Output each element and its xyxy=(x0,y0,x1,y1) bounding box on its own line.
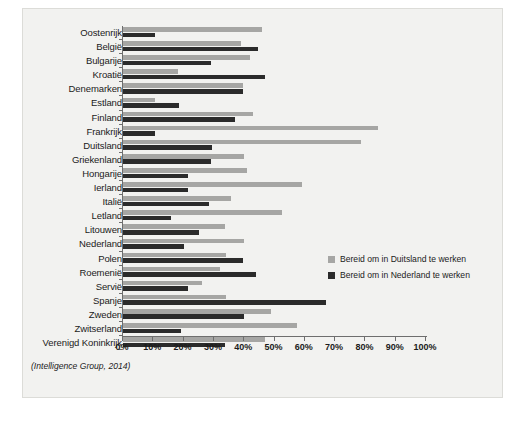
bar-nederland xyxy=(123,117,235,122)
category-label: Frankrijk xyxy=(27,125,122,139)
category-label: Nederland xyxy=(27,237,122,251)
value-tick xyxy=(425,337,426,341)
chart-page: OostenrijkBelgiëBulgarijeKroatiëDenemark… xyxy=(0,0,525,424)
bar-group xyxy=(122,181,426,195)
bar-duitsland xyxy=(123,281,202,286)
bar-group xyxy=(122,82,426,96)
bar-duitsland xyxy=(123,295,226,300)
bars-plot-area xyxy=(122,26,426,336)
bar-nederland xyxy=(123,89,243,94)
bar-duitsland xyxy=(123,27,262,32)
value-tick xyxy=(364,337,365,341)
legend-label: Bereid om in Duitsland te werken xyxy=(340,254,466,264)
category-label: Denemarken xyxy=(27,82,122,96)
bar-group xyxy=(122,209,426,223)
bar-duitsland xyxy=(123,239,244,244)
bar-nederland xyxy=(123,159,211,164)
bar-group xyxy=(122,237,426,251)
chart-plot-wrapper: OostenrijkBelgiëBulgarijeKroatiëDenemark… xyxy=(23,9,502,397)
bar-nederland xyxy=(123,272,256,277)
bar-duitsland xyxy=(123,168,247,173)
category-label: Estland xyxy=(27,96,122,110)
legend-label: Bereid om in Nederland te werken xyxy=(340,270,470,280)
bar-nederland xyxy=(123,244,184,249)
legend-swatch-icon xyxy=(328,256,335,263)
bar-group xyxy=(122,223,426,237)
bar-nederland xyxy=(123,314,244,319)
value-tick xyxy=(274,337,275,341)
value-tick xyxy=(152,337,153,341)
bar-duitsland xyxy=(123,140,361,145)
value-axis-ticks: 0%10%20%30%40%50%60%70%80%90%100% xyxy=(122,337,426,353)
bar-group xyxy=(122,294,426,308)
category-label: Zweden xyxy=(27,308,122,322)
category-label: Zwitserland xyxy=(27,322,122,336)
bar-group xyxy=(122,54,426,68)
bar-duitsland xyxy=(123,112,253,117)
bar-duitsland xyxy=(123,55,250,60)
category-label: Litouwen xyxy=(27,223,122,237)
bar-nederland xyxy=(123,103,179,108)
bar-duitsland xyxy=(123,196,231,201)
bar-group xyxy=(122,125,426,139)
legend-item[interactable]: Bereid om in Duitsland te werken xyxy=(328,254,470,264)
bar-group xyxy=(122,68,426,82)
category-label: Finland xyxy=(27,111,122,125)
bar-duitsland xyxy=(123,210,282,215)
chart-legend: Bereid om in Duitsland te werkenBereid o… xyxy=(328,254,470,286)
bar-group xyxy=(122,195,426,209)
bar-duitsland xyxy=(123,182,302,187)
bar-duitsland xyxy=(123,41,241,46)
bar-nederland xyxy=(123,329,181,334)
category-label: Griekenland xyxy=(27,153,122,167)
bar-nederland xyxy=(123,300,326,305)
category-label: Kroatië xyxy=(27,68,122,82)
category-label: Polen xyxy=(27,252,122,266)
bar-duitsland xyxy=(123,126,378,131)
bar-duitsland xyxy=(123,323,297,328)
bar-nederland xyxy=(123,75,265,80)
bar-duitsland xyxy=(123,253,226,258)
category-label: Italië xyxy=(27,195,122,209)
bar-group xyxy=(122,139,426,153)
bar-nederland xyxy=(123,188,188,193)
bar-group xyxy=(122,308,426,322)
bar-nederland xyxy=(123,61,211,66)
bar-nederland xyxy=(123,47,258,52)
bar-nederland xyxy=(123,174,188,179)
bar-group xyxy=(122,167,426,181)
value-tick xyxy=(395,337,396,341)
value-tick-label: 100% xyxy=(405,342,445,352)
value-tick xyxy=(304,337,305,341)
bar-duitsland xyxy=(123,154,244,159)
category-label: Hongarije xyxy=(27,167,122,181)
value-tick xyxy=(213,337,214,341)
bar-group xyxy=(122,40,426,54)
bar-nederland xyxy=(123,202,209,207)
bar-duitsland xyxy=(123,83,243,88)
category-label: Letland xyxy=(27,209,122,223)
value-tick xyxy=(334,337,335,341)
legend-swatch-icon xyxy=(328,272,335,279)
bar-nederland xyxy=(123,230,199,235)
bar-duitsland xyxy=(123,309,271,314)
bar-group xyxy=(122,322,426,336)
category-label: Ierland xyxy=(27,181,122,195)
bar-duitsland xyxy=(123,267,220,272)
category-label: Oostenrijk xyxy=(27,26,122,40)
bar-duitsland xyxy=(123,98,155,103)
category-label: Duitsland xyxy=(27,139,122,153)
legend-item[interactable]: Bereid om in Nederland te werken xyxy=(328,270,470,280)
category-label: Spanje xyxy=(27,294,122,308)
chart-frame: OostenrijkBelgiëBulgarijeKroatiëDenemark… xyxy=(22,8,503,398)
category-label: Bulgarije xyxy=(27,54,122,68)
bar-group xyxy=(122,153,426,167)
bar-group xyxy=(122,26,426,40)
bar-group xyxy=(122,96,426,110)
bar-nederland xyxy=(123,286,188,291)
source-caption: (Intelligence Group, 2014) xyxy=(31,361,130,371)
category-axis-labels: OostenrijkBelgiëBulgarijeKroatiëDenemark… xyxy=(27,26,122,350)
bar-group xyxy=(122,111,426,125)
bar-nederland xyxy=(123,258,243,263)
bar-nederland xyxy=(123,131,155,136)
